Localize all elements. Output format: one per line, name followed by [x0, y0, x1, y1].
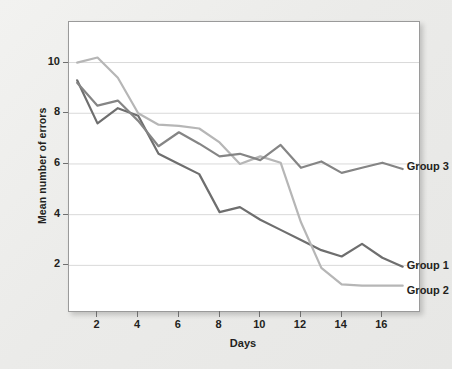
x-tick-label: 10 — [239, 318, 279, 330]
figure-container: 246810246810121416Mean number of errorsD… — [0, 0, 452, 369]
x-tick-label: 12 — [280, 318, 320, 330]
x-tick-mark — [96, 311, 97, 317]
y-axis-label: Mean number of errors — [36, 107, 48, 223]
x-tick-label: 14 — [321, 318, 361, 330]
x-axis-label: Days — [68, 337, 418, 349]
series-line-group-3 — [77, 83, 403, 173]
x-tick-mark — [381, 311, 382, 317]
series-label-group-2: Group 2 — [407, 284, 449, 296]
plot-area — [68, 21, 420, 312]
x-tick-mark — [341, 311, 342, 317]
y-tick-mark — [63, 163, 68, 164]
x-tick-mark — [259, 311, 260, 317]
x-tick-label: 16 — [361, 318, 401, 330]
series-label-group-3: Group 3 — [407, 160, 449, 172]
series-label-group-1: Group 1 — [407, 259, 449, 271]
y-tick-mark — [63, 112, 68, 113]
x-tick-label: 4 — [117, 318, 157, 330]
y-tick-label: 8 — [0, 105, 60, 117]
chart-svg — [69, 22, 419, 311]
y-tick-label: 4 — [0, 207, 60, 219]
x-tick-mark — [300, 311, 301, 317]
x-tick-label: 8 — [199, 318, 239, 330]
y-tick-label: 10 — [0, 55, 60, 67]
x-tick-mark — [137, 311, 138, 317]
x-tick-label: 2 — [76, 318, 116, 330]
x-tick-label: 6 — [158, 318, 198, 330]
gridlines — [69, 63, 419, 266]
y-tick-label: 6 — [0, 156, 60, 168]
y-tick-mark — [63, 214, 68, 215]
y-tick-label: 2 — [0, 257, 60, 269]
x-tick-mark — [178, 311, 179, 317]
series-line-group-2 — [77, 57, 403, 285]
y-tick-mark — [63, 264, 68, 265]
x-tick-mark — [219, 311, 220, 317]
y-tick-mark — [63, 62, 68, 63]
